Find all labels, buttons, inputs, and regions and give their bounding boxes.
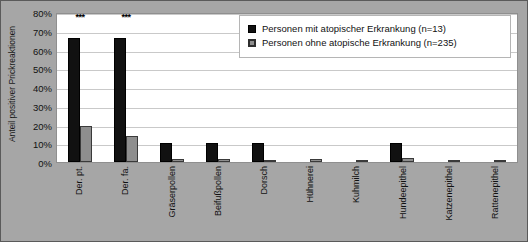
bar-chart-figure: Anteil positiver Prickreaktionen 80%70%6… (0, 0, 528, 242)
x-axis-tick-label: Kuhmilch (351, 166, 361, 203)
bar-atopic (252, 143, 264, 162)
x-axis-tick-label: Rattenepithel (490, 166, 500, 219)
x-axis-tick-label: Gräserpollen (167, 166, 177, 218)
x-axis-tick: Gräserpollen (148, 164, 194, 240)
bar-non-atopic (218, 159, 230, 162)
bar-atopic (206, 143, 218, 162)
bar-atopic (114, 38, 126, 162)
bar-group: *** (103, 14, 149, 162)
y-axis-tick-label: 50% (33, 64, 52, 75)
y-axis-title-text: Anteil positiver Prickreaktionen (7, 25, 17, 141)
y-axis-tick-label: 70% (33, 26, 52, 37)
black-square-icon (248, 25, 256, 33)
y-axis-tick-labels: 80%70%60%50%40%30%20%10%0% (19, 13, 54, 163)
x-axis-tick-label: Der. fa. (120, 166, 130, 195)
legend-item-label: Personen mit atopischer Erkrankung (n=13… (262, 23, 446, 34)
legend-item-label: Personen ohne atopische Erkrankung (n=23… (262, 37, 457, 48)
y-axis-tick-label: 30% (33, 101, 52, 112)
bar-group: *** (57, 14, 103, 162)
bar-atopic (390, 143, 402, 162)
significance-annotation: *** (121, 13, 130, 22)
legend-item: Personen ohne atopische Erkrankung (n=23… (248, 37, 502, 48)
y-axis-tick-label: 60% (33, 45, 52, 56)
x-axis-tick: Dorsch (241, 164, 287, 240)
x-axis-tick: Der. pt. (56, 164, 102, 240)
y-axis-tick-label: 20% (33, 120, 52, 131)
y-axis-tick-label: 40% (33, 83, 52, 94)
x-axis-tick-label: Katzenepithel (444, 166, 454, 221)
bar-non-atopic (402, 158, 414, 162)
bar-non-atopic (310, 159, 322, 162)
bar-non-atopic (172, 159, 184, 162)
y-axis-tick-label: 0% (38, 158, 52, 169)
x-axis-tick: Katzenepithel (426, 164, 472, 240)
bar-non-atopic (448, 160, 460, 162)
y-axis-tick-label: 10% (33, 139, 52, 150)
x-axis-tick-label: Dorsch (259, 166, 269, 195)
chart-legend: Personen mit atopischer Erkrankung (n=13… (239, 15, 511, 58)
bar-non-atopic (494, 160, 506, 162)
x-axis-tick: Hundeepithel (379, 164, 425, 240)
y-axis-title: Anteil positiver Prickreaktionen (4, 1, 20, 166)
gray-square-icon (248, 39, 256, 47)
x-axis-tick-labels: Der. pt.Der. fa.GräserpollenBeifußpollen… (56, 164, 518, 240)
x-axis-tick: Kuhmilch (333, 164, 379, 240)
x-axis-tick: Rattenepithel (472, 164, 518, 240)
bar-non-atopic (264, 160, 276, 162)
bar-group (149, 14, 195, 162)
bar-non-atopic (126, 136, 138, 162)
x-axis-tick-label: Hundeepithel (398, 166, 408, 219)
x-axis-tick: Hühnerei (287, 164, 333, 240)
bar-non-atopic (80, 126, 92, 162)
bar-atopic (68, 38, 80, 162)
y-axis-tick-label: 80% (33, 8, 52, 19)
legend-item: Personen mit atopischer Erkrankung (n=13… (248, 23, 502, 34)
significance-annotation: *** (75, 13, 84, 22)
x-axis-tick: Beifußpollen (195, 164, 241, 240)
x-axis-tick-label: Hühnerei (305, 166, 315, 203)
x-axis-tick-label: Der. pt. (74, 166, 84, 195)
x-axis-tick: Der. fa. (102, 164, 148, 240)
x-axis-tick-label: Beifußpollen (213, 166, 223, 216)
bar-atopic (160, 143, 172, 162)
bar-group (195, 14, 241, 162)
bar-non-atopic (356, 160, 368, 162)
